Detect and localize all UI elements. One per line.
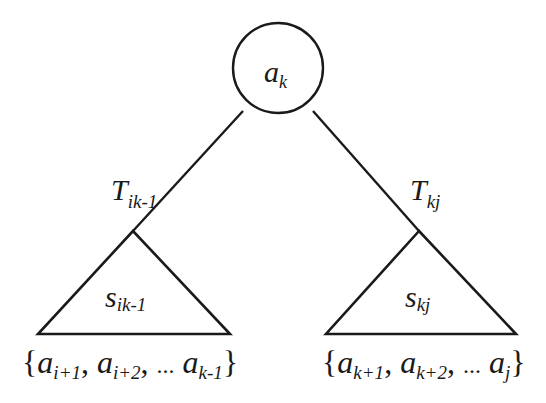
tree-diagram: ak Tik-1 Tkj sik-1 skj {ai+1, ai+2, ... … bbox=[0, 0, 546, 403]
right-subtree-set: {ak+1, ak+2, ... aj} bbox=[322, 344, 526, 383]
left-subtree-set: {ai+1, ai+2, ... ak-1} bbox=[22, 344, 238, 383]
left-subtree-triangle bbox=[38, 231, 230, 334]
left-edge-label: Tik-1 bbox=[111, 173, 157, 212]
right-edge-line bbox=[313, 111, 419, 231]
left-edge-line bbox=[133, 111, 243, 231]
right-edge-label: Tkj bbox=[410, 173, 440, 212]
right-subtree-triangle bbox=[326, 231, 516, 334]
